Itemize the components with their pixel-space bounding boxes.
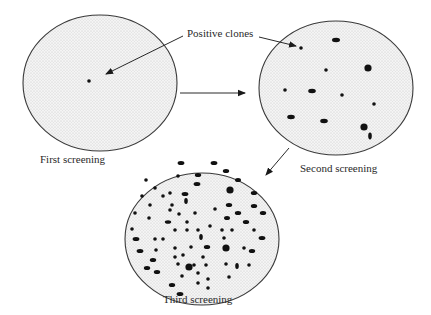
colony — [133, 211, 137, 215]
colony — [168, 208, 172, 212]
colony — [226, 203, 232, 207]
colony — [251, 191, 257, 195]
colony — [150, 258, 156, 262]
colony — [144, 178, 148, 182]
colony — [364, 64, 371, 71]
colony — [176, 174, 180, 178]
colony — [173, 255, 177, 259]
colony — [340, 93, 344, 97]
second-plate — [259, 21, 413, 155]
first-plate — [23, 15, 177, 151]
colony — [148, 203, 152, 207]
colony — [147, 216, 151, 220]
colony — [235, 211, 241, 215]
colony — [180, 274, 184, 278]
colony — [222, 236, 226, 240]
colony — [153, 237, 157, 241]
colony — [165, 220, 171, 224]
colony — [185, 220, 189, 224]
colony — [177, 212, 181, 216]
colony — [283, 88, 287, 92]
colony — [206, 286, 210, 290]
colony — [368, 133, 372, 140]
colony — [211, 161, 218, 165]
colony — [176, 262, 180, 266]
colony — [195, 173, 201, 177]
colony — [223, 169, 229, 173]
colony — [243, 220, 249, 224]
colony — [87, 79, 91, 83]
colony — [252, 228, 256, 232]
colony — [308, 89, 316, 93]
colony — [199, 234, 203, 240]
colony — [287, 115, 295, 119]
colony — [206, 277, 210, 281]
colony — [242, 246, 246, 250]
colony — [360, 123, 367, 130]
third-screening-label: Third screening — [163, 293, 233, 305]
colony — [168, 191, 172, 195]
colony — [224, 262, 228, 266]
colony — [185, 263, 192, 270]
colony — [204, 245, 210, 249]
first-plate-colonies — [87, 79, 91, 83]
colony — [204, 263, 208, 267]
colony — [137, 249, 144, 253]
colony — [130, 227, 134, 231]
colony — [196, 228, 200, 232]
colony — [259, 236, 266, 240]
colony — [194, 182, 201, 186]
colony — [226, 186, 233, 193]
colony — [181, 253, 185, 257]
colony — [153, 186, 157, 190]
colony — [299, 46, 303, 50]
third-plate — [125, 161, 279, 305]
colony — [178, 161, 185, 165]
colony — [161, 194, 165, 198]
first-plate-dish — [23, 15, 177, 151]
colony — [173, 228, 177, 232]
arrow-second-to-third — [266, 148, 289, 175]
colony — [227, 275, 231, 279]
colony — [154, 270, 160, 274]
colony — [320, 119, 328, 123]
colony — [170, 203, 174, 207]
colony — [133, 237, 140, 241]
colony — [161, 237, 165, 241]
colony — [249, 249, 255, 253]
colony — [235, 263, 239, 269]
colony — [251, 204, 257, 208]
colony — [332, 38, 340, 42]
colony — [189, 245, 193, 249]
colony — [260, 211, 266, 215]
colony — [169, 283, 175, 287]
colony — [247, 263, 251, 267]
colony — [185, 228, 189, 232]
colony — [222, 244, 229, 251]
colony — [182, 192, 189, 196]
colony — [213, 207, 217, 211]
second-screening-label: Second screening — [300, 162, 378, 174]
first-screening-label: First screening — [40, 153, 106, 165]
colony — [230, 228, 234, 232]
colony — [324, 68, 328, 72]
colony — [201, 255, 205, 259]
colony — [208, 224, 212, 228]
colony — [140, 194, 144, 198]
colony — [192, 263, 196, 267]
colony — [235, 178, 241, 182]
colony — [372, 102, 376, 106]
colony — [184, 198, 188, 204]
colony — [193, 211, 197, 215]
colony — [224, 216, 230, 220]
positive-clones-label: Positive clones — [187, 27, 253, 39]
colony — [144, 266, 150, 270]
colony — [173, 246, 177, 250]
colony — [196, 271, 200, 275]
colony — [220, 228, 224, 232]
clone-screening-diagram: Positive clones First screening Second s… — [0, 0, 431, 315]
colony — [154, 248, 158, 252]
colony — [196, 281, 200, 285]
